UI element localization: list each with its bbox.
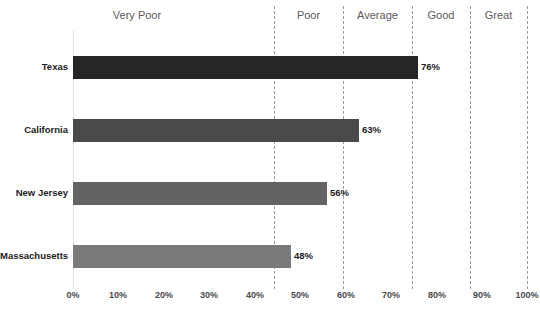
bar-value-new-jersey: 56% xyxy=(330,187,349,198)
bar-massachusetts[interactable] xyxy=(73,245,291,268)
bar-row: New Jersey 56% xyxy=(0,166,540,229)
bar-row: California 63% xyxy=(0,103,540,166)
bar-row: Massachusetts 48% xyxy=(0,229,540,292)
x-tick-label: 30% xyxy=(200,290,218,300)
x-tick-label: 50% xyxy=(291,290,309,300)
band-label-average: Average xyxy=(343,8,412,22)
bar-chart: Very Poor Poor Average Good Great Texas … xyxy=(0,0,540,311)
x-tick-label: 60% xyxy=(337,290,355,300)
category-label-texas: Texas xyxy=(0,61,68,72)
bar-value-texas: 76% xyxy=(421,61,440,72)
bar-texas[interactable] xyxy=(73,56,418,79)
band-label-good: Good xyxy=(412,8,470,22)
bar-new-jersey[interactable] xyxy=(73,182,327,205)
bar-row: Texas 76% xyxy=(0,40,540,103)
x-tick-label: 100% xyxy=(515,290,538,300)
category-label-massachusetts: Massachusetts xyxy=(0,250,68,261)
x-tick-label: 70% xyxy=(382,290,400,300)
x-tick-label: 10% xyxy=(109,290,127,300)
plot-area: Very Poor Poor Average Good Great Texas … xyxy=(0,0,540,311)
x-tick-label: 0% xyxy=(66,290,79,300)
band-label-very-poor: Very Poor xyxy=(0,8,274,22)
bar-value-california: 63% xyxy=(362,124,381,135)
x-tick-label: 80% xyxy=(428,290,446,300)
x-tick-label: 90% xyxy=(473,290,491,300)
x-tick-label: 20% xyxy=(155,290,173,300)
band-label-poor: Poor xyxy=(274,8,343,22)
category-label-new-jersey: New Jersey xyxy=(0,187,68,198)
bar-value-massachusetts: 48% xyxy=(294,250,313,261)
category-label-california: California xyxy=(0,124,68,135)
band-label-great: Great xyxy=(470,8,527,22)
bar-california[interactable] xyxy=(73,119,359,142)
x-tick-label: 40% xyxy=(246,290,264,300)
